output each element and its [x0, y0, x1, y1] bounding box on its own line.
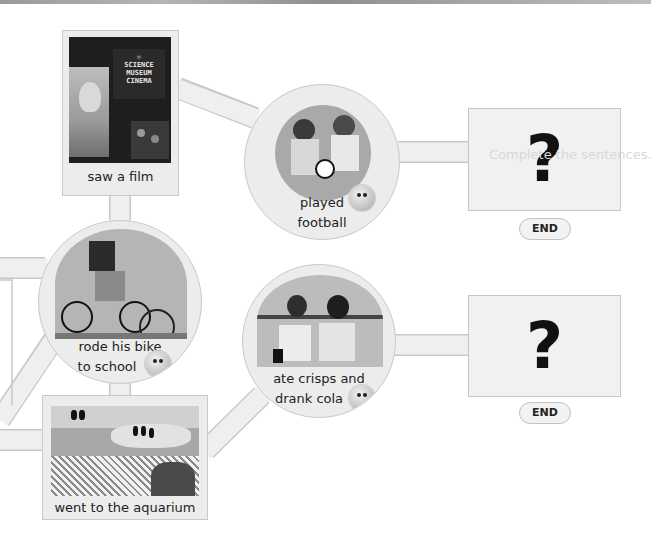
bicycle-wheel-icon	[61, 301, 93, 333]
end-button-1[interactable]: END	[519, 218, 571, 240]
node-played-football[interactable]: played football	[244, 84, 400, 240]
smiley-face-icon	[145, 351, 171, 377]
penguin-icon	[71, 410, 77, 420]
node-ate-crisps-and-drank-cola[interactable]: ate crisps and drank cola	[242, 264, 396, 418]
cinema-illustration: ⚛ SCIENCE MUSEUM CINEMA	[69, 37, 171, 163]
caption-rode-his-bike: rode his bike to school	[39, 337, 201, 377]
ending-box-1[interactable]: Complete the sentences. ?	[468, 108, 621, 211]
atom-icon: ⚛	[113, 53, 165, 61]
crisps-illustration	[257, 275, 383, 367]
node-rode-his-bike-to-school[interactable]: rode his bike to school	[38, 220, 202, 384]
bike-illustration	[55, 229, 187, 339]
smiley-face-icon	[349, 385, 375, 411]
cola-bottle-icon	[273, 349, 283, 363]
smiley-face-icon	[349, 185, 375, 211]
question-mark-icon: ?	[469, 296, 620, 396]
caption-saw-a-film: saw a film	[63, 169, 178, 184]
cinema-sign: ⚛ SCIENCE MUSEUM CINEMA	[113, 53, 165, 85]
aquarium-illustration	[51, 406, 199, 496]
end-button-2[interactable]: END	[519, 402, 571, 424]
node-saw-a-film[interactable]: ⚛ SCIENCE MUSEUM CINEMA saw a film	[62, 30, 179, 196]
caption-played-football: played football	[245, 193, 399, 233]
football-ball-icon	[315, 159, 335, 179]
node-went-to-the-aquarium[interactable]: went to the aquarium	[42, 395, 208, 520]
ending-box-2[interactable]: ?	[468, 295, 621, 397]
bleed-through-text: Complete the sentences.	[489, 147, 651, 162]
caption-went-to-the-aquarium: went to the aquarium	[43, 500, 207, 515]
